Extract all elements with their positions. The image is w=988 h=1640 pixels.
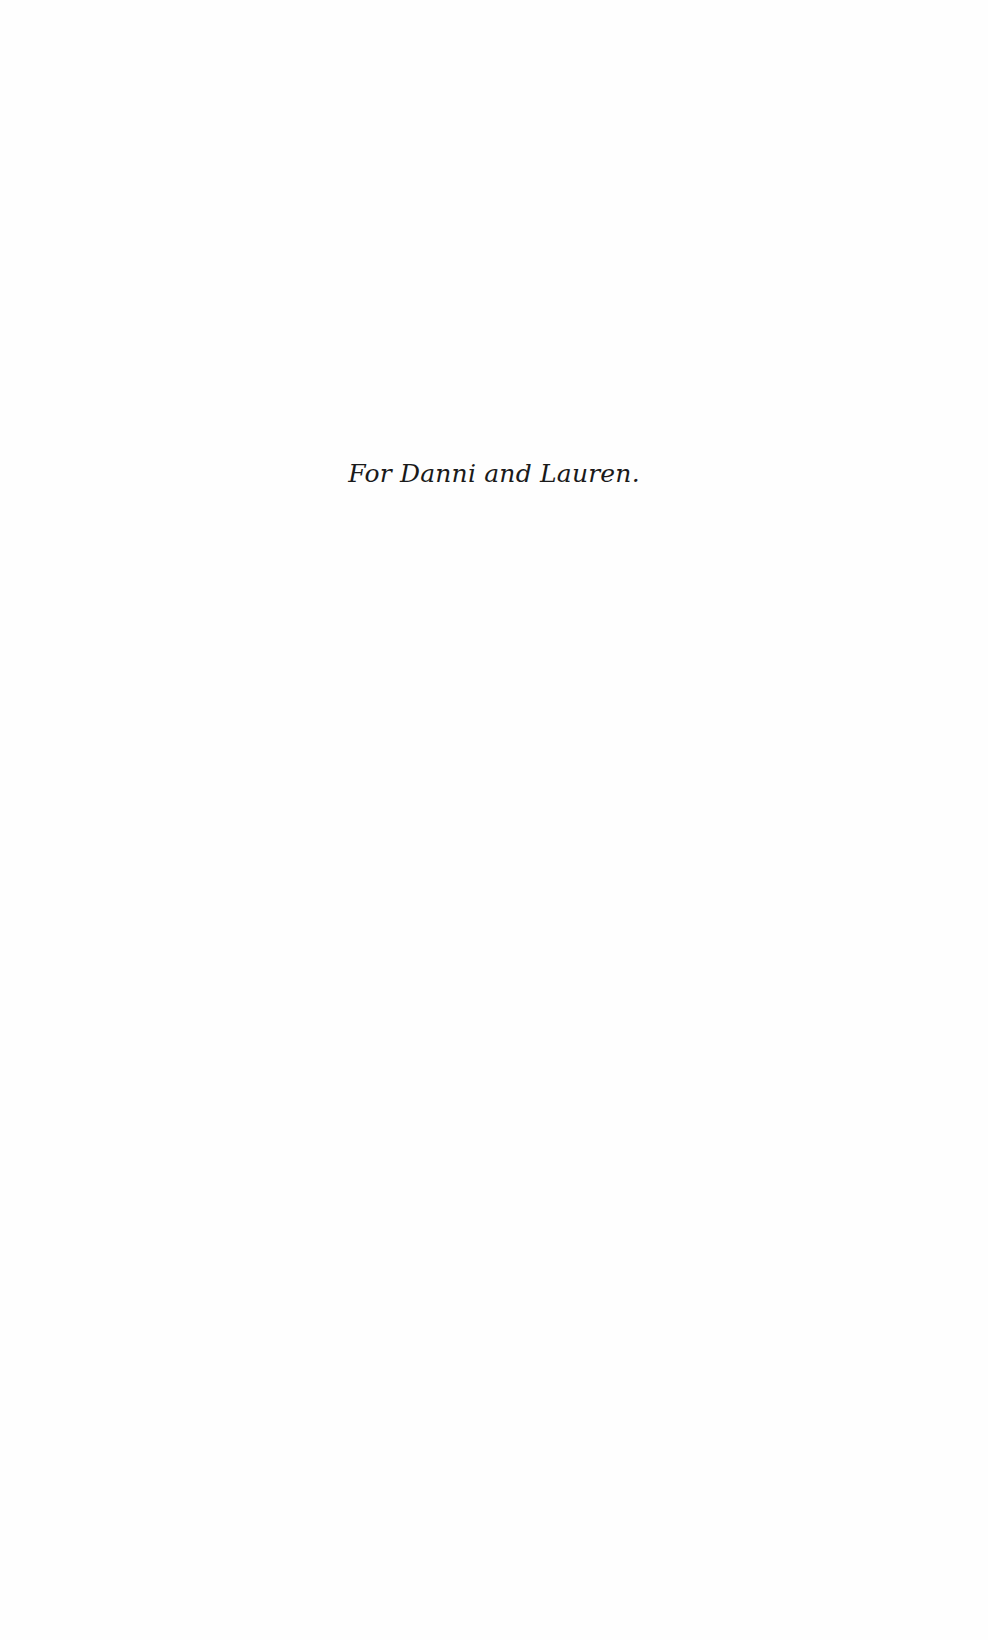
book-page: For Danni and Lauren. bbox=[0, 0, 988, 1640]
dedication-text: For Danni and Lauren. bbox=[0, 458, 988, 490]
